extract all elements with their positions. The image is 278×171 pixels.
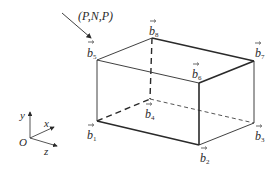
x-axis-label: x	[43, 117, 49, 129]
z-axis-label: z	[43, 145, 49, 157]
x-axis-icon	[30, 127, 54, 138]
svg-text:1: 1	[93, 135, 97, 143]
origin-label: O	[19, 136, 27, 148]
edge-b8-b7	[152, 38, 254, 61]
vertex-label-b7: b 7	[255, 42, 265, 62]
edge-b4-b3	[150, 99, 254, 123]
edge-b1-b2	[97, 121, 199, 145]
vertex-label-b1: b 1	[87, 124, 97, 144]
svg-text:3: 3	[261, 136, 265, 144]
direction-label: (P,N,P)	[78, 9, 113, 23]
edge-b1-b4	[97, 99, 150, 121]
svg-text:2: 2	[206, 158, 210, 166]
edge-b8-b4	[150, 38, 152, 99]
edge-b6-b7	[199, 61, 254, 83]
vertex-label-b3: b 3	[255, 125, 265, 145]
edge-b5-b6	[97, 60, 199, 83]
svg-text:5: 5	[93, 53, 97, 61]
y-axis-label: y	[19, 109, 25, 121]
svg-text:4: 4	[151, 114, 155, 122]
svg-text:7: 7	[261, 53, 265, 61]
vertex-label-b5: b 5	[87, 41, 97, 62]
edge-b2-b3	[199, 123, 254, 145]
svg-text:8: 8	[155, 31, 159, 39]
edge-b5-b8	[97, 38, 152, 60]
vertex-label-b8: b 8	[149, 20, 159, 40]
visible-edges	[97, 38, 254, 145]
vertex-label-b2: b 2	[200, 147, 210, 167]
vertex-label-b4: b 4	[145, 103, 155, 123]
vertex-labels: b 5 b 8 b 7 b 6 b 4	[87, 20, 265, 167]
cuboid-diagram: (P,N,P) b 5 b 8 b 7 b 6	[0, 0, 278, 171]
svg-text:6: 6	[198, 74, 202, 82]
vertex-label-b6: b 6	[192, 63, 202, 83]
